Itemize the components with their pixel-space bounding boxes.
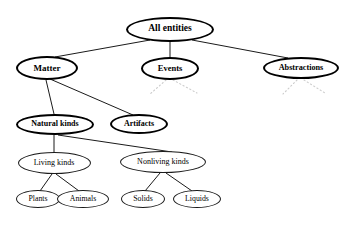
node-label-artifacts: Artifacts [124, 120, 154, 128]
edge-matter-to-natural_kinds [46, 80, 54, 114]
edge-nonliving_kinds-to-liquids [166, 173, 192, 191]
node-label-natural_kinds: Natural kinds [31, 120, 78, 128]
node-all_entities[interactable]: All entities [126, 17, 214, 42]
edge-living_kinds-to-plants [40, 174, 52, 191]
node-label-plants: Plants [28, 195, 47, 203]
edge-all_entities-to-abstractions [192, 40, 288, 58]
node-label-nonliving_kinds: Nonliving kinds [137, 158, 189, 166]
node-plants[interactable]: Plants [16, 190, 60, 208]
node-solids[interactable]: Solids [121, 190, 165, 208]
edge-nonliving_kinds-to-solids [145, 173, 160, 191]
node-liquids[interactable]: Liquids [173, 190, 221, 208]
node-abstractions[interactable]: Abstractions [263, 57, 339, 79]
node-nonliving_kinds[interactable]: Nonliving kinds [120, 151, 206, 173]
edge-living_kinds-to-animals [56, 174, 79, 191]
node-label-solids: Solids [133, 195, 153, 203]
node-living_kinds[interactable]: Living kinds [18, 152, 91, 174]
node-events[interactable]: Events [141, 57, 199, 80]
node-label-events: Events [158, 63, 183, 71]
node-label-all_entities: All entities [148, 24, 192, 34]
edge-events-to-unspecified-left [150, 80, 166, 94]
node-natural_kinds[interactable]: Natural kinds [16, 114, 94, 135]
node-label-abstractions: Abstractions [279, 64, 324, 72]
node-label-matter: Matter [34, 63, 61, 72]
diagram-canvas: All entitiesMatterEventsAbstractionsNatu… [0, 0, 346, 225]
node-animals[interactable]: Animals [57, 190, 109, 208]
edge-all_entities-to-matter [55, 40, 150, 57]
node-matter[interactable]: Matter [16, 56, 78, 80]
edge-abstractions-to-unspecified-left [283, 80, 297, 94]
node-label-animals: Animals [70, 195, 96, 203]
edge-natural_kinds-to-nonliving_kinds [58, 135, 172, 152]
edge-events-to-unspecified-right [173, 80, 197, 93]
node-label-living_kinds: Living kinds [34, 159, 75, 167]
node-label-liquids: Liquids [185, 195, 209, 203]
edge-matter-to-artifacts [50, 79, 133, 115]
node-artifacts[interactable]: Artifacts [110, 114, 168, 134]
edge-abstractions-to-unspecified-right [304, 80, 325, 93]
